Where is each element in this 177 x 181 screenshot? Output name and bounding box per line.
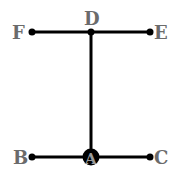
point-c: [147, 154, 154, 161]
point-d: [88, 29, 95, 36]
label-a: A: [84, 150, 97, 168]
diagram-canvas: F D E B A C: [0, 0, 177, 181]
geometry-figure: F D E B A C: [0, 0, 177, 181]
label-f: F: [12, 22, 25, 43]
label-e: E: [154, 22, 168, 43]
label-d: D: [84, 8, 100, 29]
label-b: B: [13, 147, 28, 168]
point-f: [29, 29, 36, 36]
point-b: [29, 154, 36, 161]
label-c: C: [154, 147, 168, 168]
point-e: [147, 29, 154, 36]
